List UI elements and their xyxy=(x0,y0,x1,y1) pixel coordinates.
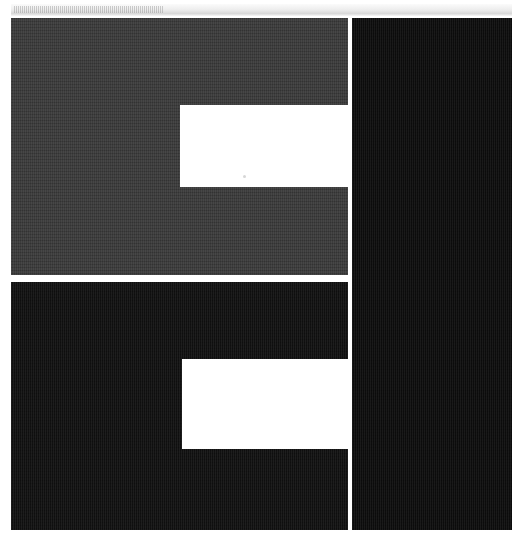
side-panel[interactable] xyxy=(352,18,512,530)
title-bar[interactable] xyxy=(10,4,512,16)
content-card-upper[interactable] xyxy=(180,105,348,187)
page-margin-right xyxy=(512,0,526,545)
artifact-speck-icon xyxy=(243,175,246,178)
page-margin-bottom xyxy=(0,530,526,545)
title-bar-texture xyxy=(14,6,164,13)
screenshot-root xyxy=(0,0,526,545)
page-margin-top xyxy=(0,0,526,4)
content-card-lower[interactable] xyxy=(182,359,348,449)
page-margin-left xyxy=(0,0,11,545)
